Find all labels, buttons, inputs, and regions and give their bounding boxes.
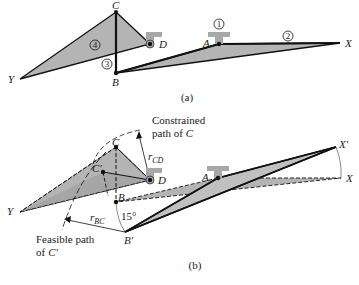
link-number-1: 1 bbox=[214, 19, 224, 29]
panel-a: 1 2 3 4 C D Y B A X (a) bbox=[8, 0, 353, 104]
constrained-path-label: Constrained path ofC bbox=[152, 114, 208, 139]
svg-text:1: 1 bbox=[217, 19, 222, 29]
linkage-diagram: 1 2 3 4 C D Y B A X (a) bbox=[0, 0, 359, 285]
label-x-b: X bbox=[345, 172, 354, 184]
label-d-b: D bbox=[157, 174, 166, 186]
svg-text:2: 2 bbox=[286, 31, 291, 41]
label-c: C bbox=[112, 0, 120, 11]
label-b-prime: B′ bbox=[124, 234, 134, 246]
label-b-b: B bbox=[118, 191, 125, 203]
svg-text:4: 4 bbox=[93, 40, 98, 50]
label-y-b: Y bbox=[7, 205, 15, 217]
label-y: Y bbox=[8, 73, 16, 85]
label-x-prime: X′ bbox=[338, 138, 349, 150]
r-cd-label: rCD bbox=[148, 150, 164, 165]
caption-b: (b) bbox=[189, 259, 202, 272]
label-a: A bbox=[202, 37, 210, 49]
panel-b: C C′ D B B′ A X X′ Y 15° rCD rBC Constra… bbox=[7, 114, 354, 272]
feasible-path-label: Feasible path ofC′ bbox=[36, 233, 97, 258]
link-number-2: 2 bbox=[283, 31, 293, 41]
label-c-b: C bbox=[112, 136, 120, 148]
link-number-3: 3 bbox=[102, 59, 112, 69]
arc-x-to-x-prime bbox=[336, 147, 341, 178]
angle-label: 15° bbox=[121, 210, 136, 222]
label-d: D bbox=[158, 38, 167, 50]
caption-a: (a) bbox=[181, 91, 194, 104]
label-a-b: A bbox=[201, 171, 209, 183]
label-b: B bbox=[112, 76, 119, 88]
r-bc-label: rBC bbox=[90, 211, 105, 226]
label-x: X bbox=[344, 37, 353, 49]
svg-text:3: 3 bbox=[105, 59, 110, 69]
label-c-prime: C′ bbox=[92, 162, 102, 174]
